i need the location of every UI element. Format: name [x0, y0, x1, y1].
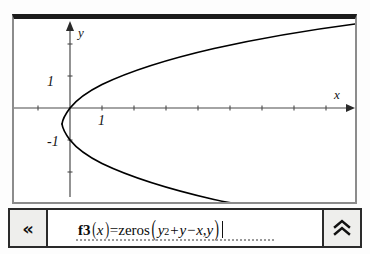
formula-expression-base: y	[158, 222, 165, 239]
formula-text: f3(x)=zeros(y2+y−x,y)	[78, 215, 223, 241]
formula-command: zeros	[118, 222, 150, 239]
y-axis-tick-label-neg-one: -1	[47, 134, 59, 149]
text-cursor	[222, 221, 223, 238]
curve-lower-branch	[62, 124, 304, 202]
y-axis-tick-label-one: 1	[47, 74, 54, 89]
formula-expression-rest: +y−x	[169, 222, 203, 239]
x-axis-tick-label-one: 1	[98, 113, 105, 128]
close-paren-icon: )	[105, 218, 109, 240]
graph-canvas[interactable]: y x 1 1 -1	[12, 14, 357, 204]
formula-function-name: f3	[78, 222, 91, 239]
x-axis-label: x	[333, 87, 340, 102]
open-paren-icon: (	[92, 218, 96, 240]
chevron-double-left-icon[interactable]: «	[10, 210, 48, 246]
graph-plot: y x 1 1 -1	[14, 19, 355, 202]
chevron-double-up-glyph	[331, 217, 353, 239]
calculator-graph-screen: y x 1 1 -1 « f3(x)=zeros(y2+y−x,y)	[0, 0, 370, 254]
chevron-double-up-icon[interactable]	[322, 210, 360, 246]
formula-variable: y	[207, 222, 214, 239]
expression-entry-bar[interactable]: « f3(x)=zeros(y2+y−x,y)	[8, 208, 362, 248]
formula-input[interactable]: f3(x)=zeros(y2+y−x,y)	[48, 210, 322, 246]
formula-argument: x	[97, 222, 104, 239]
x-axis	[14, 104, 355, 112]
curve-upper-branch	[62, 24, 355, 124]
y-axis-label: y	[76, 25, 84, 40]
formula-equals: =	[110, 222, 118, 239]
entry-underline	[76, 239, 276, 241]
